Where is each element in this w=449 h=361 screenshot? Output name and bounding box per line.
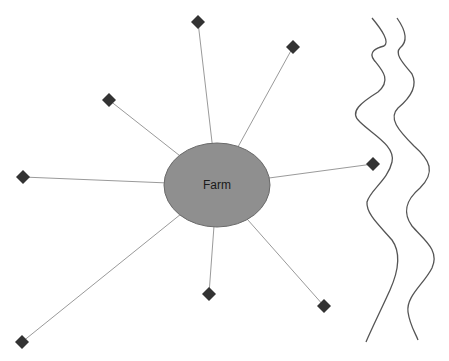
diagram-canvas: Farm bbox=[0, 0, 449, 361]
farm-label: Farm bbox=[203, 178, 231, 192]
diamond-node-icon bbox=[15, 335, 29, 349]
diamond-node-icon bbox=[102, 93, 116, 107]
river-bank-right bbox=[394, 18, 434, 340]
river-bank-left bbox=[355, 18, 397, 342]
diamond-node-icon bbox=[286, 40, 300, 54]
diamond-node-icon bbox=[366, 157, 380, 171]
river bbox=[355, 18, 434, 342]
diamond-node-icon bbox=[16, 170, 30, 184]
farm-diagram: Farm bbox=[0, 0, 449, 361]
diamond-node-icon bbox=[191, 15, 205, 29]
diamond-node-icon bbox=[202, 287, 216, 301]
